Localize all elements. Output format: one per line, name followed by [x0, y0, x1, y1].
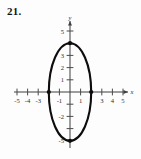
y-tick-label-pos5: 5 — [61, 28, 65, 35]
x-tick-label-neg4: -4 — [25, 97, 31, 104]
x-tick-label-pos1: 1 — [79, 97, 82, 104]
y-axis-arrow-icon — [68, 21, 72, 26]
x-axis-group — [14, 90, 128, 94]
y-tick-label-pos2: 2 — [61, 64, 64, 71]
x-tick-label-neg1: -1 — [57, 97, 63, 104]
vertex-dot-right — [89, 90, 93, 94]
y-tick-label-neg2: -2 — [59, 113, 65, 120]
y-tick-label-neg5: -5 — [59, 137, 65, 144]
x-tick-label-neg5: -5 — [14, 97, 20, 104]
x-tick-label-pos5: 5 — [121, 97, 125, 104]
y-axis-name-label: y — [68, 14, 72, 21]
vertex-dot-top — [68, 41, 72, 45]
x-tick-label-pos4: 4 — [111, 97, 115, 104]
x-axis-name-label: x — [130, 88, 134, 95]
y-tick-label-pos1: 1 — [61, 76, 64, 83]
vertex-dot-bottom — [68, 139, 72, 143]
plot-svg: -5 -4 -3 -1 1 3 4 5 5 3 2 1 -2 -5 x y — [0, 14, 141, 159]
y-tick-label-pos3: 3 — [61, 52, 65, 59]
x-tick-label-neg3: -3 — [35, 97, 41, 104]
coordinate-plot: -5 -4 -3 -1 1 3 4 5 5 3 2 1 -2 -5 x y — [0, 14, 141, 159]
x-axis-arrow-icon — [124, 90, 129, 94]
x-tick-label-pos3: 3 — [100, 97, 104, 104]
figure-container: 21. — [0, 0, 141, 159]
vertex-dot-left — [47, 90, 51, 94]
